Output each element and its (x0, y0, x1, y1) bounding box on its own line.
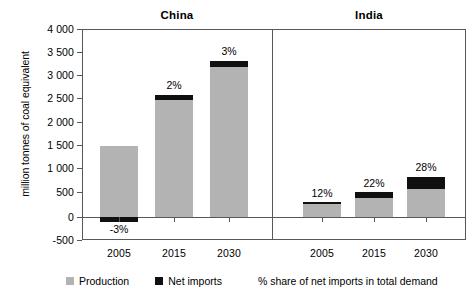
panel-title-india: India (272, 9, 466, 21)
y-tick-mark-1000 (77, 168, 82, 169)
x-tick-mark-india-2015 (374, 217, 375, 222)
legend-swatch-production-icon (66, 277, 74, 285)
y-tick-mark-4000 (77, 29, 82, 30)
y-tick-label-2500: 2 500 (0, 93, 74, 104)
bar-china-2015-production (155, 100, 193, 217)
chart-legend: Production Net imports % share of net im… (66, 275, 438, 287)
label-india-2015-pct: 22% (345, 178, 403, 189)
x-tick-mark-india-2005 (322, 217, 323, 222)
label-china-2015-pct: 2% (145, 80, 203, 91)
panel-title-china: China (82, 9, 272, 21)
y-tick-mark-neg500 (77, 240, 82, 241)
x-tick-label-china-2005: 2005 (94, 247, 144, 259)
y-tick-label-500: 500 (0, 187, 74, 198)
x-tick-mark-china-2015 (174, 217, 175, 222)
legend-label-net-imports: Net imports (168, 275, 222, 287)
y-tick-mark-3000 (77, 75, 82, 76)
y-tick-label-neg500: -500 (0, 235, 74, 246)
legend-swatch-net-imports-icon (155, 277, 163, 285)
y-tick-mark-2500 (77, 98, 82, 99)
x-tick-mark-china-2030 (229, 217, 230, 222)
bar-india-2015-net-imports (355, 192, 393, 198)
x-tick-label-india-2015: 2015 (349, 247, 399, 259)
bar-india-2005-production (303, 204, 341, 217)
label-india-2005-pct: 12% (293, 188, 351, 199)
label-india-2030-pct: 28% (397, 162, 455, 173)
y-tick-mark-3500 (77, 52, 82, 53)
legend-label-production: Production (79, 275, 129, 287)
bar-china-2030-net-imports (210, 61, 248, 67)
y-tick-label-1000: 1 000 (0, 163, 74, 174)
legend-item-production: Production (66, 275, 129, 287)
x-tick-label-india-2005: 2005 (297, 247, 347, 259)
x-tick-label-china-2030: 2030 (204, 247, 254, 259)
x-tick-label-china-2015: 2015 (149, 247, 199, 259)
y-tick-label-3500: 3 500 (0, 47, 74, 58)
bar-china-2005-production (100, 146, 138, 217)
bar-india-2005-net-imports (303, 202, 341, 204)
y-tick-label-0: 0 (0, 212, 74, 223)
label-china-2030-pct: 3% (200, 46, 258, 57)
y-tick-label-4000: 4 000 (0, 24, 74, 35)
x-tick-mark-india-2030 (426, 217, 427, 222)
x-tick-mark-china-2005 (119, 217, 120, 222)
label-china-2005-pct: -3% (90, 224, 148, 235)
y-tick-mark-2000 (77, 122, 82, 123)
chart-figure: million tonnes of coal equivalent 4 000 … (0, 0, 473, 301)
y-tick-label-3000: 3 000 (0, 70, 74, 81)
legend-item-net-imports: Net imports (155, 275, 222, 287)
y-tick-mark-1500 (77, 145, 82, 146)
bar-china-2015-net-imports (155, 95, 193, 100)
bar-india-2030-net-imports (407, 177, 445, 189)
y-tick-label-2000: 2 000 (0, 117, 74, 128)
y-tick-mark-500 (77, 192, 82, 193)
panel-divider (272, 29, 273, 240)
y-tick-label-1500: 1 500 (0, 140, 74, 151)
zero-baseline (82, 217, 466, 218)
bar-china-2030-production (210, 67, 248, 217)
bar-india-2030-production (407, 189, 445, 217)
x-tick-label-india-2030: 2030 (401, 247, 451, 259)
legend-note: % share of net imports in total demand (258, 275, 438, 287)
bar-india-2015-production (355, 198, 393, 217)
